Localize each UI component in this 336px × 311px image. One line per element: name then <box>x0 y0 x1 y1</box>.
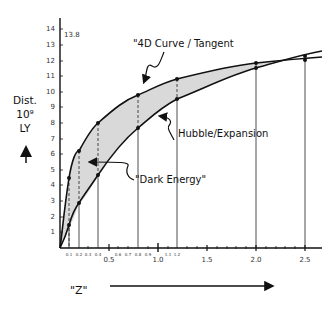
dark-energy-label: "Dark Energy" <box>135 174 206 185</box>
x-major-2.5: 2.5 <box>299 256 310 264</box>
y-tick-7: 7 <box>51 135 55 143</box>
curve-4d-pointer <box>144 52 164 82</box>
x-minor-0.9: 0.9 <box>145 252 152 257</box>
y-axis-title: Dist. 10⁹ LY <box>13 94 37 134</box>
age-value-label: 13.8 <box>64 31 80 39</box>
x-minor-0.7: 0.7 <box>125 252 132 257</box>
y-tick-13: 13 <box>46 41 55 49</box>
hubble-label: Hubble/Expansion <box>178 128 268 139</box>
x-major-1.5: 1.5 <box>201 256 212 264</box>
y-tick-1: 1 <box>51 228 55 236</box>
x-major-1.0: 1.0 <box>152 256 163 264</box>
y-tick-labels: 1 2 3 4 5 6 7 8 9 10 11 12 13 14 <box>46 25 55 236</box>
hubble-pointer <box>160 116 174 140</box>
y-title-dist: Dist. <box>13 94 37 106</box>
x-major-labels: 0.5 1.0 1.5 2.0 2.5 <box>103 256 310 264</box>
x-minor-0.1: 0.1 <box>66 252 73 257</box>
y-tick-4: 4 <box>51 181 56 189</box>
y-tick-2: 2 <box>51 213 55 221</box>
y-tick-3: 3 <box>51 197 55 205</box>
y-title-ly: LY <box>20 122 31 134</box>
x-minor-1.2: 1.2 <box>174 252 181 257</box>
chart-canvas: 1 2 3 4 5 6 7 8 9 10 11 12 13 14 13.8 0.… <box>0 0 336 311</box>
x-minor-0.2: 0.2 <box>76 252 83 257</box>
x-axis-title: "Z" <box>70 284 88 297</box>
x-minor-0.4: 0.4 <box>95 252 102 257</box>
y-tick-8: 8 <box>51 119 55 127</box>
x-minor-0.3: 0.3 <box>85 252 92 257</box>
curve-4d-label: "4D Curve / Tangent <box>133 38 234 49</box>
y-title-unit: 10⁹ <box>16 108 34 120</box>
y-tick-6: 6 <box>51 150 56 158</box>
y-tick-11: 11 <box>46 72 55 80</box>
y-tick-5: 5 <box>51 166 55 174</box>
x-minor-1.1: 1.1 <box>165 252 172 257</box>
x-minor-0.8: 0.8 <box>135 252 142 257</box>
y-tick-12: 12 <box>46 57 55 65</box>
y-tick-14: 14 <box>46 25 55 33</box>
x-major-0.5: 0.5 <box>103 256 114 264</box>
x-minor-0.6: 0.6 <box>115 252 122 257</box>
y-tick-10: 10 <box>46 88 55 96</box>
x-major-2.0: 2.0 <box>250 256 261 264</box>
y-tick-9: 9 <box>51 103 55 111</box>
dark-energy-region <box>60 61 276 248</box>
